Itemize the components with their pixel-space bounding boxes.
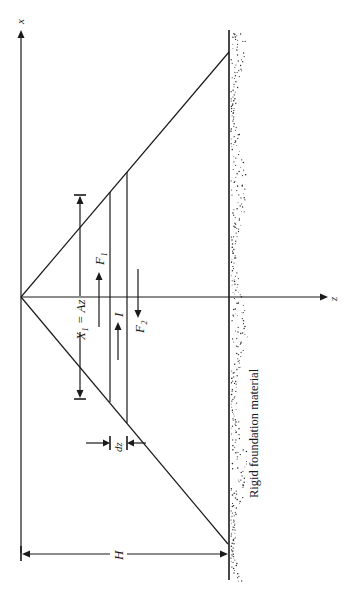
x-axis-arrowhead-icon [18,30,25,38]
inertia-force: I [111,312,126,360]
h-label: H [111,550,126,561]
rigid-foundation: Rigid foundation material [229,30,261,582]
f2-label: F₂ [132,320,147,334]
dam-section-diagram: x z X₁ = Az F₁ I F₂ [0,0,348,595]
diagram-canvas: x z X₁ = Az F₁ I F₂ [0,0,348,595]
z-axis-label: z [327,296,339,302]
h-dimension: H [21,546,228,561]
force-f2: F₂ [132,269,147,334]
x-axis-label: x [14,19,26,25]
dz-right-arrowhead-icon [127,440,134,447]
x1-top-arrowhead-icon [77,196,84,204]
f2-arrowhead-icon [135,310,142,318]
f1-label: F₁ [92,253,107,266]
f1-arrowhead-icon [96,272,103,280]
foundation-label: Rigid foundation material [247,368,261,498]
dam-triangle [21,52,229,544]
x-axis: x [14,19,26,553]
h-right-arrowhead-icon [220,551,228,558]
x1-bottom-arrowhead-icon [77,390,84,398]
inertia-label: I [111,312,126,318]
z-axis: z [21,294,339,303]
dz-label: dz [112,442,124,453]
foundation-stipple-pattern [230,33,248,581]
inertia-arrowhead-icon [115,322,122,330]
dz-left-arrowhead-icon [103,440,110,447]
force-f1: F₁ [92,253,107,327]
dz-dimension: dz [86,436,146,452]
x1-equation-label: X₁ = Az [73,300,88,342]
